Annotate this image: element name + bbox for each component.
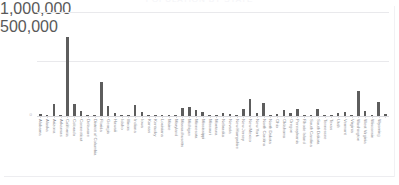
x-axis-tick [250,116,251,118]
x-axis-tick [122,116,123,118]
x-label-slot: Virginia [348,119,355,181]
x-axis-tick [216,116,217,118]
x-axis-tick [155,116,156,118]
x-axis-category-label: North Carolina [261,119,266,146]
x-label-slot: Arizona [51,119,58,181]
x-label-slot: Arkansas [57,119,64,181]
x-label-slot: New Jersey [240,119,247,181]
x-axis-tick [325,116,326,118]
x-axis-category-label: Tennessee [322,119,327,139]
bar-slot [145,12,152,116]
bar[interactable] [100,82,103,116]
x-axis-tick [210,116,211,118]
x-axis-tick [297,116,298,118]
x-axis-tick [304,116,305,118]
bar[interactable] [53,104,56,116]
x-axis-category-label: Massachusetts [180,119,185,147]
x-axis-tick [54,116,55,118]
x-axis-category-label: Maryland [173,119,178,136]
bar[interactable] [188,107,191,116]
x-label-slot: Maryland [172,119,179,181]
bar-slot [105,12,112,116]
y-axis-label-zero: 0 [0,112,32,117]
x-axis-tick [318,116,319,118]
x-axis-tick [385,116,386,118]
bar-slot [254,12,261,116]
x-axis-category-label: Wisconsin [369,119,374,138]
x-axis-tick [365,116,366,118]
bar-slot [267,12,274,116]
x-label-slot: Hawaii [111,119,118,181]
x-axis-category-label: Indiana [133,119,138,133]
bar[interactable] [107,106,110,116]
bar[interactable] [181,108,184,116]
bar-slot [375,12,382,116]
bar[interactable] [357,91,360,116]
x-axis-category-label: Arkansas [58,119,63,137]
x-axis-category-label: Utah [336,119,341,128]
x-axis-tick [162,116,163,118]
x-axis-category-label: Alaska [45,119,50,132]
bar-slot [71,12,78,116]
bar-slot [341,12,348,116]
bar-slot [118,12,125,116]
bar-slot [37,12,44,116]
x-axis-category-label: Hawaii [112,119,117,132]
bar-slot [64,12,71,116]
x-axis-tick [358,116,359,118]
x-label-slot: Kansas [145,119,152,181]
bar[interactable] [134,105,137,116]
x-axis-tick [352,116,353,118]
x-label-slot: Connecticut [78,119,85,181]
x-label-slot: Maine [166,119,173,181]
bar-slot [382,12,389,116]
bar-slot [152,12,159,116]
x-label-slot: Nebraska [220,119,227,181]
x-axis-tick [372,116,373,118]
x-label-slot: Oregon [287,119,294,181]
x-axis-tick [40,116,41,118]
bar-slot [172,12,179,116]
x-axis-category-label: North Dakota [268,119,273,144]
x-axis-category-label: Maine [166,119,171,130]
x-axis-category-label: New York [254,119,259,137]
x-axis-category-label: Virginia [349,119,354,133]
x-axis-category-label: Connecticut [78,119,83,141]
x-label-slot: Kentucky [152,119,159,181]
x-axis-tick [264,116,265,118]
x-axis-tick [291,116,292,118]
bar[interactable] [66,37,69,116]
x-axis-tick [196,116,197,118]
x-label-slot: South Carolina [308,119,315,181]
x-axis-tick [142,116,143,118]
x-axis-tick [379,116,380,118]
bar-slot [213,12,220,116]
bar-slot [132,12,139,116]
x-label-slot: Mississippi [199,119,206,181]
bar[interactable] [262,103,265,116]
x-label-slot: Missouri [206,119,213,181]
x-axis-category-label: West Virginia [363,119,368,144]
bar[interactable] [249,99,252,116]
x-axis-category-label: Kansas [146,119,151,133]
x-axis-tick [67,116,68,118]
x-axis-category-label: Rhode Island [302,119,307,144]
bar[interactable] [316,109,319,116]
x-axis-category-label: Colorado [72,119,77,136]
x-label-slot: Rhode Island [301,119,308,181]
x-label-slot: Idaho [118,119,125,181]
bar[interactable] [296,109,299,116]
x-axis-category-label: Pennsylvania [295,119,300,144]
x-label-slot: Wyoming [375,119,382,181]
x-axis-tick [47,116,48,118]
bar[interactable] [242,109,245,116]
bar-slot [274,12,281,116]
x-label-slot: Oklahoma [281,119,288,181]
x-axis-tick [270,116,271,118]
bar[interactable] [73,104,76,116]
x-label-slot: Vermont [341,119,348,181]
x-axis-category-label: California [65,119,70,137]
bar-slot [193,12,200,116]
bar[interactable] [377,102,380,116]
bar-slot [240,12,247,116]
